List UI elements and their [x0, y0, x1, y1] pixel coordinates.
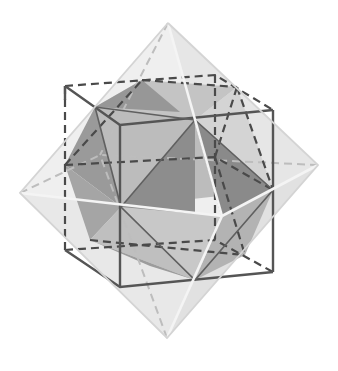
- polyhedra-compound-figure: [0, 0, 338, 371]
- diagram-canvas: [0, 0, 338, 371]
